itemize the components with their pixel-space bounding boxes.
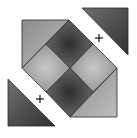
plus-marker-icon [36,95,44,103]
plus-marker-icon [95,34,103,42]
puzzle-figure [0,0,137,138]
